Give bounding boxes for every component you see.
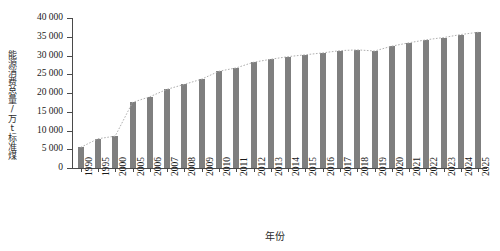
x-axis-tick: [478, 168, 479, 172]
x-axis-tick: [219, 168, 220, 172]
x-axis-tick: [98, 168, 99, 172]
x-axis-tick-label: 2021: [413, 157, 423, 176]
x-axis-tick: [392, 168, 393, 172]
x-axis-tick-label: 2000: [119, 157, 129, 176]
x-axis-tick: [150, 168, 151, 172]
x-axis-tick-label: 2022: [430, 157, 440, 176]
y-axis-tick-label: 15 000: [37, 107, 63, 117]
x-axis-tick: [184, 168, 185, 172]
trend-polyline: [81, 32, 479, 147]
x-axis-tick-label: 2011: [240, 157, 250, 176]
x-axis-tick-label: 2018: [361, 157, 371, 176]
x-axis-tick: [305, 168, 306, 172]
x-axis-tick: [81, 168, 82, 172]
x-axis-tick: [271, 168, 272, 172]
y-axis-tick-label: 25 000: [37, 69, 63, 79]
x-axis-tick: [115, 168, 116, 172]
trend-line: [72, 18, 487, 168]
y-axis-tick: [67, 168, 72, 169]
y-axis-tick-label: 35 000: [37, 32, 63, 42]
x-axis-tick: [323, 168, 324, 172]
x-axis-tick: [288, 168, 289, 172]
x-axis-tick-label: 2012: [258, 157, 268, 176]
x-axis-tick-label: 2014: [292, 157, 302, 176]
x-axis-tick-label: 2015: [309, 157, 319, 176]
x-axis-tick: [426, 168, 427, 172]
x-axis-tick: [202, 168, 203, 172]
x-axis-tick: [254, 168, 255, 172]
x-axis-tick-label: 1995: [102, 157, 112, 176]
y-axis-tick-label: 20 000: [37, 88, 63, 98]
x-axis-tick-label: 2006: [154, 157, 164, 176]
x-axis-tick-label: 2010: [223, 157, 233, 176]
x-axis-tick: [167, 168, 168, 172]
x-axis-tick-label: 2019: [379, 157, 389, 176]
x-axis-tick-label: 2016: [327, 157, 337, 176]
x-axis-tick-label: 2017: [344, 157, 354, 176]
x-axis-tick: [340, 168, 341, 172]
x-axis-tick: [461, 168, 462, 172]
x-axis-tick-label: 2008: [188, 157, 198, 176]
y-axis-tick-label: 0: [58, 163, 63, 173]
y-axis-tick-label: 10 000: [37, 126, 63, 136]
x-axis-tick: [444, 168, 445, 172]
y-axis-tick-label: 5 000: [42, 144, 63, 154]
x-axis-tick-label: 2023: [448, 157, 458, 176]
x-axis-tick-label: 2007: [171, 157, 181, 176]
x-axis-tick: [236, 168, 237, 172]
energy-consumption-bar-chart: 能源消费总量/万t标准煤 05 00010 00015 00020 00025 …: [0, 0, 500, 251]
x-axis-tick-label: 2005: [137, 157, 147, 176]
x-axis-tick-label: 2013: [275, 157, 285, 176]
y-axis-tick-label: 30 000: [37, 51, 63, 61]
x-axis-tick-label: 2009: [206, 157, 216, 176]
x-axis-tick: [133, 168, 134, 172]
x-axis-title-text: 年份: [265, 231, 285, 242]
x-axis-tick: [409, 168, 410, 172]
x-axis-tick-label: 2020: [396, 157, 406, 176]
y-axis-tick-label: 40 000: [37, 13, 63, 23]
x-axis-tick: [375, 168, 376, 172]
x-axis-tick-label: 2024: [465, 157, 475, 176]
y-axis-title: 能源消费总量/万t标准煤: [4, 30, 20, 180]
x-axis-tick: [357, 168, 358, 172]
x-axis-tick-label: 2025: [482, 157, 492, 176]
x-axis-tick-label: 1990: [85, 157, 95, 176]
x-axis-title: 年份: [0, 228, 500, 243]
